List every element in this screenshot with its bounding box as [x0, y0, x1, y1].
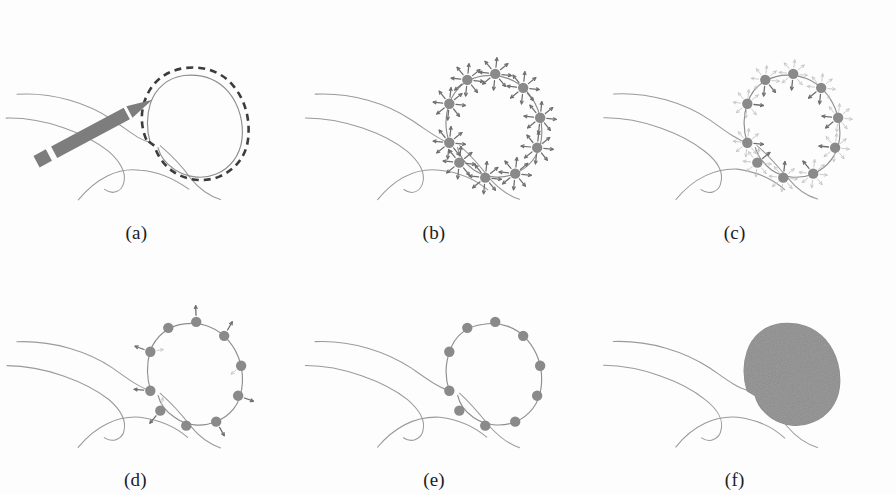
contour-node	[145, 385, 155, 395]
panel-e: (e)	[299, 248, 598, 495]
anatomy-curve	[604, 365, 722, 440]
contour-node	[490, 69, 500, 79]
contour-node	[788, 69, 798, 79]
contour-node	[742, 99, 752, 109]
contour-node	[462, 75, 472, 85]
contour-node	[454, 157, 464, 167]
contour-node	[480, 172, 490, 182]
panel-d-label: (d)	[0, 470, 285, 489]
contour-node	[462, 322, 472, 332]
anatomy-curve	[78, 170, 188, 200]
panel-b-canvas	[299, 0, 598, 248]
contour-node	[480, 420, 490, 430]
contour-node	[830, 143, 840, 153]
panel-a-canvas	[0, 0, 299, 248]
panel-f: (f)	[597, 248, 896, 495]
contour-node	[454, 405, 464, 415]
stylus-shaft	[51, 108, 130, 158]
search-arrow-star	[194, 305, 197, 314]
contour-node	[535, 360, 545, 370]
contour-node	[518, 330, 528, 340]
anatomy-curve	[78, 416, 188, 446]
contour-node	[444, 346, 454, 356]
initial-dashed-contour	[142, 68, 249, 181]
panel-e-label: (e)	[285, 470, 584, 489]
contour-node	[752, 157, 762, 167]
panel-c: (c)	[597, 0, 896, 248]
contour-node	[510, 416, 520, 426]
panel-a: (a)	[0, 0, 299, 248]
anatomy-curve	[676, 417, 785, 447]
contour-node	[155, 405, 165, 415]
anatomy-curve	[604, 118, 722, 193]
contour-node	[219, 330, 229, 340]
panel-c-label: (c)	[585, 223, 884, 242]
anatomy-curve	[305, 118, 423, 192]
contour-node	[833, 113, 843, 123]
search-arrow-star	[231, 370, 236, 374]
contour-node	[510, 168, 520, 178]
contour-node	[236, 360, 246, 370]
contour-node	[532, 390, 542, 400]
segmented-region-texture	[745, 323, 840, 425]
panel-d-canvas	[0, 248, 299, 495]
figure-root: (a) (b) (c) (d) (e) (f)	[0, 0, 896, 495]
contour-node	[233, 390, 243, 400]
search-arrow-star	[228, 321, 233, 329]
contour-node	[532, 143, 542, 153]
contour-node	[444, 99, 454, 109]
contour-node	[760, 75, 770, 85]
contour-node	[211, 416, 221, 426]
segmented-region	[745, 323, 840, 425]
anatomy-curve	[160, 146, 220, 200]
anatomy-curve	[377, 417, 486, 447]
anatomy-curve	[614, 341, 748, 390]
contour-node	[145, 346, 155, 356]
anatomy-curve	[377, 170, 487, 200]
search-arrow-star	[220, 427, 225, 435]
panel-f-label: (f)	[585, 470, 884, 489]
panel-d: (d)	[0, 248, 299, 495]
panel-a-label: (a)	[0, 223, 286, 242]
anatomy-curve	[676, 169, 785, 199]
contour-node	[816, 83, 826, 93]
contour-node	[163, 322, 173, 332]
anatomy-curve	[614, 94, 748, 143]
panel-b: (b)	[299, 0, 598, 248]
contour-node	[778, 172, 788, 182]
stylus-pointer	[33, 100, 152, 168]
anatomy-curve	[7, 365, 124, 440]
anatomy-curve	[315, 341, 449, 390]
contour-node	[490, 316, 500, 326]
search-arrow-star	[244, 397, 253, 401]
contour-node	[808, 168, 818, 178]
contour-node	[518, 83, 528, 93]
contour-node	[444, 138, 454, 148]
contour-node	[444, 385, 454, 395]
contour-node	[181, 420, 191, 430]
contour-node	[742, 138, 752, 148]
panel-f-canvas	[597, 248, 896, 495]
anatomy-curve	[305, 365, 423, 440]
anatomy-curve	[17, 341, 150, 390]
panel-grid: (a) (b) (c) (d) (e) (f)	[0, 0, 896, 495]
contour-node	[535, 113, 545, 123]
contour-node	[191, 316, 201, 326]
panel-b-label: (b)	[285, 223, 584, 242]
panel-e-canvas	[299, 248, 598, 495]
panel-c-canvas	[597, 0, 896, 248]
stylus-butt	[33, 149, 51, 167]
search-arrow-star	[134, 388, 143, 391]
